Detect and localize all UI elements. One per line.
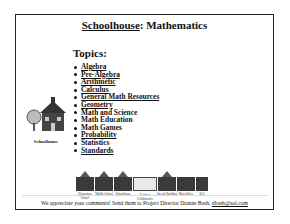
bullet-icon bbox=[74, 149, 77, 152]
topics-heading: Topics: bbox=[73, 47, 107, 59]
footer: We appreciate your comments! Send them t… bbox=[16, 200, 273, 206]
nav-tile-elementary[interactable]: Elementary School bbox=[76, 177, 94, 191]
title-subject: : Mathematics bbox=[140, 19, 208, 31]
nav-tile-special-building[interactable]: Special Building bbox=[158, 177, 176, 191]
bullet-icon bbox=[74, 134, 77, 137]
nav-tile-main-office[interactable]: Main Office bbox=[177, 177, 195, 191]
schoolhouse-icon[interactable] bbox=[24, 95, 66, 137]
schoolhouse-link[interactable]: Schoolhouse bbox=[82, 19, 140, 31]
bullet-icon bbox=[74, 104, 77, 107]
footer-text: We appreciate your comments! Send them t… bbox=[41, 200, 212, 206]
nav-tile-schoolhouse[interactable]: Schoolhouse bbox=[114, 177, 132, 191]
bullet-icon bbox=[74, 73, 77, 76]
bullet-icon bbox=[74, 96, 77, 99]
page-frame: Schoolhouse: Mathematics Topics: Algebra… bbox=[15, 14, 274, 210]
bullet-icon bbox=[74, 111, 77, 114]
topic-link-standards[interactable]: Standards bbox=[81, 146, 113, 155]
bullet-icon bbox=[74, 81, 77, 84]
logo-label: Schoolhouse bbox=[24, 139, 68, 144]
bullet-icon bbox=[74, 89, 77, 92]
bullet-icon bbox=[74, 142, 77, 145]
nav-tile-teachers[interactable]: Teachers' Collaborative bbox=[133, 177, 157, 191]
topics-list: Algebra Pre-Algebra Arithmetic Calculus … bbox=[74, 63, 159, 154]
bullet-icon bbox=[74, 66, 77, 69]
contact-email-link[interactable]: dbash@aol.com bbox=[212, 200, 248, 206]
nav-image-strip: Elementary School Middle School Schoolho… bbox=[76, 161, 209, 191]
nav-tile-middle-school[interactable]: Middle School bbox=[95, 177, 113, 191]
footer-divider bbox=[22, 195, 267, 196]
page-title: Schoolhouse: Mathematics bbox=[16, 19, 273, 31]
list-item: Standards bbox=[74, 147, 159, 155]
bullet-icon bbox=[74, 127, 77, 130]
bullet-icon bbox=[74, 119, 77, 122]
nav-tile-bell[interactable]: Bell bbox=[196, 177, 208, 191]
